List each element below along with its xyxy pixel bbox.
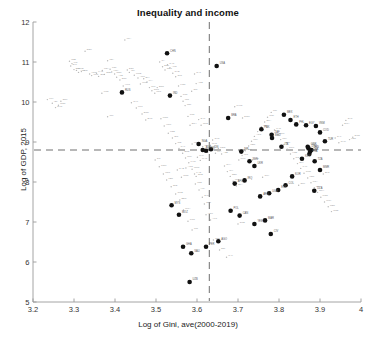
data-point[interactable] — [195, 183, 196, 184]
data-point[interactable] — [137, 77, 138, 78]
data-point[interactable] — [310, 182, 311, 183]
data-point-highlighted[interactable] — [120, 90, 125, 95]
data-point[interactable] — [124, 39, 125, 40]
data-point[interactable] — [102, 70, 103, 71]
data-point[interactable] — [131, 102, 132, 103]
data-point[interactable] — [227, 171, 228, 172]
data-point-highlighted[interactable] — [282, 112, 287, 117]
data-point-highlighted[interactable] — [177, 212, 182, 217]
data-point-highlighted[interactable] — [312, 188, 317, 193]
data-point[interactable] — [270, 112, 271, 113]
data-point[interactable] — [136, 107, 137, 108]
data-point[interactable] — [81, 71, 82, 72]
data-point[interactable] — [181, 176, 182, 177]
data-point-highlighted[interactable] — [200, 148, 205, 153]
data-point[interactable] — [324, 201, 325, 202]
data-point[interactable] — [238, 159, 239, 160]
data-point[interactable] — [145, 119, 146, 120]
data-point[interactable] — [71, 63, 72, 64]
data-point[interactable] — [114, 73, 115, 74]
data-point[interactable] — [307, 177, 308, 178]
data-point-highlighted[interactable] — [204, 244, 209, 249]
data-point[interactable] — [280, 139, 281, 140]
data-point[interactable] — [160, 118, 161, 119]
data-point-highlighted[interactable] — [258, 194, 263, 199]
data-point[interactable] — [175, 76, 176, 77]
data-point-highlighted[interactable] — [318, 130, 323, 135]
data-point[interactable] — [98, 76, 99, 77]
data-point[interactable] — [210, 219, 211, 220]
data-point-highlighted[interactable] — [312, 159, 317, 164]
data-point[interactable] — [187, 220, 188, 221]
data-point[interactable] — [204, 203, 205, 204]
data-point[interactable] — [143, 78, 144, 79]
data-point[interactable] — [286, 148, 287, 149]
data-point[interactable] — [234, 106, 235, 107]
data-point[interactable] — [191, 90, 192, 91]
data-point[interactable] — [178, 85, 179, 86]
scatter-plot-canvas[interactable]: 3.23.33.43.53.63.73.83.9456789101112 LUX… — [0, 0, 376, 342]
data-point[interactable] — [151, 90, 152, 91]
data-point-highlighted[interactable] — [263, 218, 268, 223]
data-point[interactable] — [175, 143, 176, 144]
data-point-highlighted[interactable] — [318, 168, 323, 173]
data-point[interactable] — [166, 179, 167, 180]
data-point[interactable] — [317, 192, 318, 193]
data-point[interactable] — [185, 167, 186, 168]
data-point-highlighted[interactable] — [314, 124, 319, 129]
data-point[interactable] — [182, 100, 183, 101]
data-point[interactable] — [205, 214, 206, 215]
data-point[interactable] — [73, 69, 74, 70]
data-point[interactable] — [237, 223, 238, 224]
data-point-highlighted[interactable] — [187, 280, 192, 285]
data-point[interactable] — [52, 102, 53, 103]
data-point[interactable] — [213, 239, 214, 240]
data-point[interactable] — [180, 96, 181, 97]
data-point-highlighted[interactable] — [300, 156, 305, 161]
data-point-highlighted[interactable] — [305, 144, 310, 149]
data-point[interactable] — [175, 193, 176, 194]
data-point[interactable] — [212, 139, 213, 140]
data-point[interactable] — [303, 172, 304, 173]
data-point[interactable] — [184, 105, 185, 106]
data-point[interactable] — [251, 140, 252, 141]
data-point-highlighted[interactable] — [269, 132, 274, 137]
data-point[interactable] — [163, 173, 164, 174]
data-point-highlighted[interactable] — [165, 51, 170, 56]
data-point-highlighted[interactable] — [196, 142, 201, 147]
data-point-highlighted[interactable] — [290, 174, 295, 179]
data-point-highlighted[interactable] — [169, 203, 174, 208]
data-point[interactable] — [107, 60, 108, 61]
data-point-highlighted[interactable] — [214, 64, 219, 69]
data-point-highlighted[interactable] — [237, 213, 242, 218]
data-point[interactable] — [109, 68, 110, 69]
data-point-highlighted[interactable] — [288, 118, 293, 123]
data-point[interactable] — [129, 72, 130, 73]
data-point[interactable] — [219, 249, 220, 250]
data-point-highlighted[interactable] — [259, 127, 264, 132]
data-point[interactable] — [197, 156, 198, 157]
data-point[interactable] — [89, 73, 90, 74]
data-point[interactable] — [198, 119, 199, 120]
data-point[interactable] — [345, 120, 346, 121]
data-point[interactable] — [134, 74, 135, 75]
data-point-highlighted[interactable] — [189, 251, 194, 256]
data-point[interactable] — [352, 136, 353, 137]
data-point[interactable] — [101, 92, 102, 93]
data-point[interactable] — [200, 160, 201, 161]
data-point[interactable] — [168, 132, 169, 133]
data-point[interactable] — [242, 117, 243, 118]
data-point[interactable] — [179, 199, 180, 200]
data-point[interactable] — [338, 142, 339, 143]
data-point[interactable] — [293, 158, 294, 159]
data-point[interactable] — [149, 87, 150, 88]
data-point[interactable] — [198, 189, 199, 190]
data-point[interactable] — [254, 136, 255, 137]
data-point[interactable] — [140, 83, 141, 84]
data-point[interactable] — [122, 85, 123, 86]
data-point[interactable] — [267, 116, 268, 117]
data-point[interactable] — [226, 256, 227, 257]
data-point-highlighted[interactable] — [226, 116, 231, 121]
data-point[interactable] — [164, 69, 165, 70]
data-point[interactable] — [127, 69, 128, 70]
